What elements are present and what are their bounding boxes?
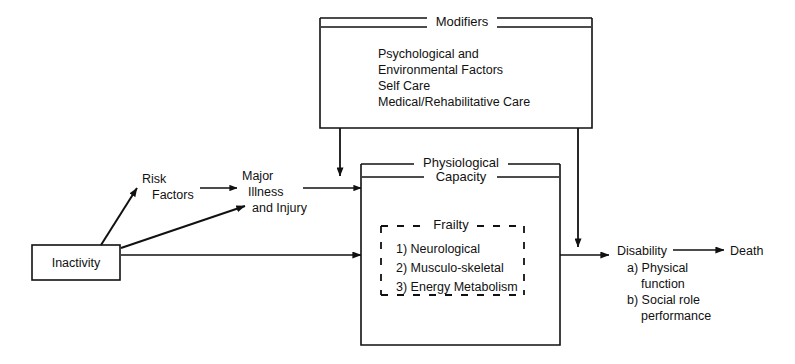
modifiers-item-3: Medical/Rehabilitative Care (378, 95, 530, 109)
disability-item-a-line2: function (641, 277, 685, 291)
death-label: Death (730, 244, 763, 258)
inactivity-box: Inactivity (32, 245, 120, 280)
diagram-canvas: Modifiers Psychological and Environmenta… (0, 0, 795, 364)
disability-item-a-line1: a) Physical (627, 261, 688, 275)
inactivity-label: Inactivity (52, 256, 101, 270)
edge-inactivity-to-risk-factors (101, 188, 137, 245)
major-illness-line1: Major (242, 169, 273, 183)
edge-inactivity-to-major-illness (121, 206, 245, 248)
frailty-title: Frailty (433, 217, 469, 232)
modifiers-box: Modifiers Psychological and Environmenta… (320, 14, 592, 128)
major-illness-line3: and Injury (252, 201, 308, 215)
disability-item-b-line1: b) Social role (627, 293, 700, 307)
disability-item-b-line2: performance (641, 309, 711, 323)
physcap-title-line2: Capacity (436, 169, 487, 184)
modifiers-item-1: Environmental Factors (378, 63, 503, 77)
risk-factors-line2: Factors (152, 188, 194, 202)
risk-factors-node: Risk Factors (142, 172, 194, 202)
modifiers-title: Modifiers (436, 14, 489, 29)
major-illness-line2: Illness (248, 185, 283, 199)
risk-factors-line1: Risk (142, 172, 167, 186)
frailty-item-1: 2) Musculo-skeletal (396, 261, 504, 275)
flow-diagram: Modifiers Psychological and Environmenta… (0, 0, 795, 364)
death-node: Death (730, 244, 763, 258)
disability-title: Disability (617, 244, 668, 258)
disability-node: Disability a) Physical function b) Socia… (617, 244, 711, 323)
physcap-title-line1: Physiological (423, 155, 499, 170)
frailty-item-2: 3) Energy Metabolism (396, 280, 518, 294)
frailty-box: Frailty 1) Neurological 2) Musculo-skele… (381, 217, 524, 295)
frailty-item-0: 1) Neurological (396, 242, 480, 256)
modifiers-item-2: Self Care (378, 79, 430, 93)
major-illness-node: Major Illness and Injury (242, 169, 308, 215)
modifiers-item-0: Psychological and (378, 47, 479, 61)
